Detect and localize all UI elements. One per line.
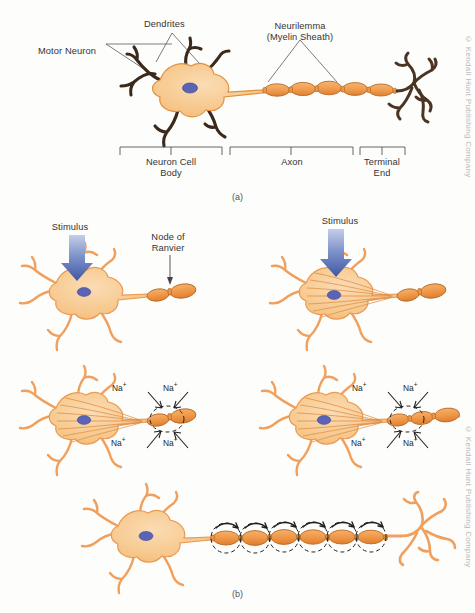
- bracket-label-terminal-end-line2: End: [358, 168, 406, 179]
- neuron-figure: Motor Neuron Dendrites Neurilemma (Myeli…: [0, 0, 475, 613]
- nucleus-step2: [327, 291, 341, 300]
- panel-a: Motor Neuron Dendrites Neurilemma (Myeli…: [0, 0, 475, 200]
- soma-step5: [111, 510, 213, 562]
- node-of-ranvier-step1: [168, 288, 172, 294]
- bracket-label-axon: Axon: [231, 157, 353, 168]
- na-ion-label-step3-4: Na+: [163, 436, 177, 448]
- node-of-ranvier-step3: [168, 413, 172, 419]
- bracket-label-terminal-end-line1: Terminal: [358, 157, 406, 168]
- soma-panel-a: [153, 63, 266, 116]
- na-ion-label-step3-3: Na+: [111, 436, 125, 448]
- label-node-of-ranvier-line2: Ranvier: [134, 243, 202, 254]
- label-neurilemma-line1: Neurilemma: [252, 21, 348, 32]
- label-neurilemma-line2: (Myelin Sheath): [252, 32, 348, 43]
- myelin-sheath-panel-a: [265, 81, 394, 96]
- nucleus-step4: [317, 416, 331, 425]
- na-ion-label-step4-3: Na+: [351, 436, 365, 448]
- node-of-ranvier-step2: [418, 288, 422, 294]
- terminal-end-panel-a: [389, 53, 436, 122]
- panel-b-step4-illustration: [248, 358, 475, 478]
- panel-b-step5-illustration: [70, 478, 475, 598]
- nucleus-step3: [77, 416, 91, 425]
- label-stimulus-step1: Stimulus: [30, 222, 110, 233]
- impulse-jump-arrows-step5: [216, 522, 383, 528]
- nucleus-step5: [139, 532, 153, 541]
- nucleus-panel-a: [183, 83, 198, 93]
- panel-b-letter: (b): [0, 589, 475, 599]
- copyright-notice-bottom: © Kendall Hunt Publishing Company: [464, 425, 473, 590]
- label-node-of-ranvier-line1: Node of: [134, 232, 202, 243]
- panel-b-step2-illustration: [258, 215, 473, 365]
- bracket-label-neuron-cell-body-line1: Neuron Cell: [121, 157, 221, 168]
- nucleus-step1: [77, 288, 91, 297]
- na-ion-label-step3-1: Na+: [112, 381, 126, 393]
- na-ion-label-step4-2: Na+: [403, 381, 417, 393]
- terminal-end-step5: [400, 492, 455, 565]
- panel-b-step1-illustration: [8, 215, 248, 365]
- myelin-sheath-step4: [386, 407, 460, 427]
- label-dendrites: Dendrites: [144, 19, 185, 30]
- panel-a-letter: (a): [0, 192, 475, 202]
- na-ion-label-step4-4: Na+: [403, 436, 417, 448]
- bracket-label-neuron-cell-body-line2: Body: [121, 168, 221, 179]
- measurement-brackets-panel-a: [120, 147, 405, 155]
- label-motor-neuron: Motor Neuron: [38, 46, 96, 57]
- panel-b-step3-illustration: [8, 358, 248, 478]
- node-pointer-arrowhead-step1: [167, 277, 173, 285]
- na-ion-label-step4-1: Na+: [352, 381, 366, 393]
- soma-step1: [49, 267, 151, 319]
- na-ion-label-step3-2: Na+: [163, 381, 177, 393]
- copyright-notice-top: © Kendall Hunt Publishing Company: [464, 35, 473, 200]
- label-stimulus-step2: Stimulus: [300, 216, 380, 227]
